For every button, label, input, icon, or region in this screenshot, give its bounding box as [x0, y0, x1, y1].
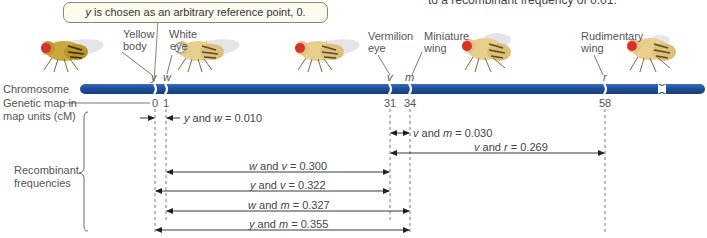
- gene-w-symbol: w: [163, 71, 171, 83]
- genetic-map-label-line1: Genetic map in: [3, 97, 77, 109]
- map-unit-y: 0: [152, 97, 158, 109]
- recombinant-brace: [79, 112, 88, 231]
- rf-label-y-m: y and m = 0.355: [249, 218, 328, 230]
- gene-y-name-line2: body: [123, 40, 147, 52]
- map-unit-v: 31: [384, 97, 396, 109]
- map-unit-m: 34: [404, 97, 416, 109]
- fly-wild-type-icon: [295, 36, 361, 72]
- gene-m-name-line2: wing: [424, 42, 447, 54]
- fly-miniature-wing-icon: [462, 33, 511, 72]
- map-unit-w: 1: [163, 97, 169, 109]
- gene-w-name-line2: eye: [170, 40, 188, 52]
- gene-v-name-line2: eye: [368, 42, 386, 54]
- gene-y-name-line1: Yellow: [123, 28, 154, 40]
- gene-position-guides: [155, 109, 605, 232]
- gene-y-symbol: y: [151, 71, 157, 83]
- rf-label-y-v: y and v = 0.322: [250, 179, 326, 191]
- gene-v-symbol: v: [387, 71, 393, 83]
- recombinant-label-line2: frequencies: [14, 177, 71, 189]
- chromosome-label: Chromosome: [3, 83, 69, 95]
- gene-m-symbol: m: [405, 71, 414, 83]
- rf-label-w-m: w and m = 0.327: [248, 199, 330, 211]
- gene-r-name-line1: Rudimentary: [581, 30, 643, 42]
- rf-label-y-w: y and w = 0.010: [184, 112, 262, 124]
- gene-r-symbol: r: [603, 71, 607, 83]
- chromosome-bar: [80, 84, 705, 94]
- map-unit-r: 58: [599, 97, 611, 109]
- fly-yellow-body-icon: [41, 36, 105, 72]
- genetic-map-label-line2: map units (cM): [3, 110, 76, 122]
- gene-r-name-line2: wing: [581, 42, 604, 54]
- gene-v-name-line1: Vermilion: [368, 30, 413, 42]
- rf-label-w-v: w and v = 0.300: [249, 160, 327, 172]
- gene-w-name-line1: White: [169, 28, 197, 40]
- recombinant-label-line1: Recombinant: [14, 164, 79, 176]
- rf-label-v-r: v and r = 0.269: [474, 141, 548, 153]
- rf-label-v-m: v and m = 0.030: [413, 127, 492, 139]
- gene-m-name-line1: Miniature: [424, 30, 469, 42]
- frequency-arrows: [140, 118, 604, 230]
